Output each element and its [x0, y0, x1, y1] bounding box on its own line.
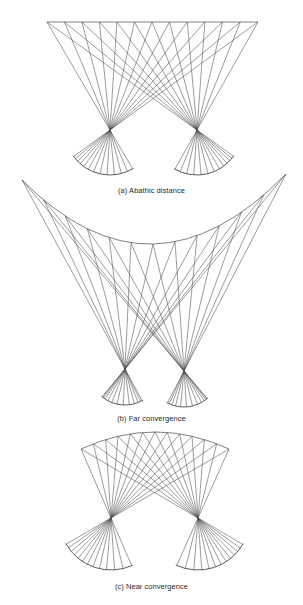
visual-ray	[47, 22, 234, 156]
visual-ray	[192, 436, 202, 570]
visual-ray	[130, 434, 230, 559]
visual-ray	[167, 174, 286, 403]
visual-ray	[153, 244, 193, 406]
visual-ray	[117, 244, 153, 404]
visual-ray	[93, 444, 240, 548]
horopter-figure	[0, 0, 303, 605]
caption-abathic-distance: (a) Abathic distance	[0, 186, 303, 195]
visual-ray	[106, 440, 115, 570]
visual-ray	[123, 243, 131, 405]
panel-near-convergence	[66, 432, 244, 570]
left-eye	[66, 432, 229, 570]
visual-ray	[102, 174, 286, 397]
right-eye	[81, 432, 243, 570]
visual-ray	[81, 449, 132, 566]
caption-far-convergence: (b) Far convergence	[0, 414, 303, 423]
visual-ray	[143, 432, 227, 561]
retina-arc	[102, 396, 143, 405]
visual-ray	[82, 22, 230, 161]
visual-ray	[81, 449, 243, 544]
panel-abathic-distance	[47, 22, 258, 175]
panel-far-convergence	[22, 174, 286, 407]
retina-arc	[167, 398, 208, 407]
visual-ray	[75, 22, 240, 159]
horopter-curve	[81, 432, 229, 449]
visual-ray	[167, 432, 215, 566]
visual-ray	[80, 22, 205, 164]
visual-ray	[117, 22, 224, 166]
visual-ray	[175, 22, 258, 169]
visual-ray	[66, 449, 229, 544]
visual-ray	[64, 22, 127, 171]
visual-ray	[187, 22, 223, 174]
visual-ray	[131, 243, 198, 405]
caption-near-convergence: (c) Near convergence	[0, 582, 303, 591]
visual-ray	[134, 22, 219, 169]
visual-ray	[100, 22, 134, 174]
visual-ray	[105, 226, 219, 399]
visual-ray	[84, 22, 187, 167]
visual-ray	[172, 212, 242, 405]
visual-ray	[94, 22, 152, 172]
visual-ray	[175, 242, 186, 407]
visual-ray	[194, 440, 205, 570]
visual-ray	[64, 22, 231, 158]
visual-ray	[112, 242, 175, 403]
visual-ray	[78, 434, 180, 558]
visual-ray	[194, 22, 205, 175]
visual-ray	[74, 436, 192, 555]
visual-ray	[118, 436, 234, 555]
